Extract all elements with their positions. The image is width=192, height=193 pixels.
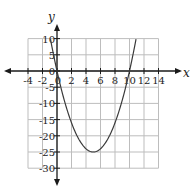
x-tick-label: 2 [68,75,74,86]
x-tick-label: 12 [138,75,151,86]
x-tick-label: 8 [112,75,118,86]
x-tick-label: -4 [23,75,33,86]
y-tick-label: -30 [39,163,55,174]
parabola-chart: -4-22468101214-30-25-20-15-10-505100 x y [0,0,192,193]
axes [4,24,182,186]
y-tick-label: -15 [39,115,55,126]
x-axis-label: x [183,66,190,80]
x-tick-label: 6 [97,75,103,86]
x-tick-label: 4 [83,75,89,86]
y-axis-up-arrow-icon [54,24,60,31]
x-tick-label: 14 [152,75,165,86]
y-tick-label: -5 [45,82,55,93]
x-axis-right-arrow-icon [175,68,182,74]
y-axis-label: y [47,10,55,24]
x-tick-label: 10 [123,75,136,86]
y-tick-label: -25 [39,147,55,158]
y-tick-label: 10 [42,34,55,45]
y-axis-down-arrow-icon [54,179,60,186]
x-axis-left-arrow-icon [4,68,11,74]
parabola-curve [50,39,136,152]
y-tick-label: -10 [39,98,55,109]
y-tick-label: -20 [39,131,55,142]
